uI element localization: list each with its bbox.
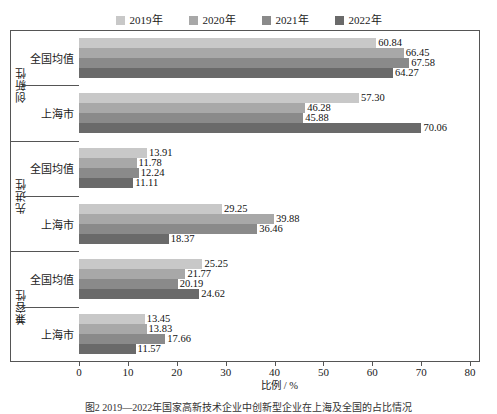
row-label: 上海市 <box>22 196 77 251</box>
bar[interactable] <box>79 324 147 334</box>
bar-value-label: 18.37 <box>169 233 195 244</box>
legend-label: 2021年 <box>276 15 309 26</box>
chart-row: 上海市57.3046.2845.8870.06 <box>22 85 470 140</box>
bar-track: 29.25 <box>79 204 470 214</box>
bar[interactable] <box>79 214 274 224</box>
bar[interactable] <box>79 234 169 244</box>
row-label: 上海市 <box>22 307 77 362</box>
bar-value-label: 17.66 <box>165 334 191 345</box>
chart-row: 全国均值13.9111.7812.2411.11 <box>22 141 470 196</box>
figure-caption: 图2 2019—2022年国家高新技术企业中创新型企业在上海及全国的占比情况 <box>0 399 497 414</box>
bar-cluster: 29.2539.8836.4618.37 <box>79 196 470 251</box>
bar[interactable] <box>79 113 303 123</box>
legend-item[interactable]: 2019年 <box>116 15 163 26</box>
bar-value-label: 64.27 <box>393 67 419 78</box>
bar-cluster: 25.2521.7720.1924.62 <box>79 251 470 306</box>
bar-track: 70.06 <box>79 123 470 133</box>
bar[interactable] <box>79 168 139 178</box>
bar-value-label: 45.88 <box>303 113 329 124</box>
bar-cluster: 13.4513.8317.6611.57 <box>79 307 470 362</box>
bar[interactable] <box>79 158 137 168</box>
bar-track: 36.46 <box>79 224 470 234</box>
bar-track: 57.30 <box>79 93 470 103</box>
legend-label: 2019年 <box>130 15 163 26</box>
bar[interactable] <box>79 103 305 113</box>
bar-track: 11.57 <box>79 344 470 354</box>
legend-label: 2020年 <box>203 15 236 26</box>
bar[interactable] <box>79 279 178 289</box>
legend-item[interactable]: 2020年 <box>189 15 236 26</box>
bar[interactable] <box>79 68 393 78</box>
bar[interactable] <box>79 178 133 188</box>
bar-track: 64.27 <box>79 68 470 78</box>
row-label: 全国均值 <box>22 30 77 85</box>
bar-track: 13.83 <box>79 324 470 334</box>
bar[interactable] <box>79 48 404 58</box>
legend-item[interactable]: 2021年 <box>262 15 309 26</box>
bar[interactable] <box>79 289 199 299</box>
row-label: 上海市 <box>22 85 77 140</box>
bar-track: 24.62 <box>79 289 470 299</box>
bar-value-label: 60.84 <box>376 37 402 48</box>
bar[interactable] <box>79 259 202 269</box>
bar-value-label: 20.19 <box>178 279 204 290</box>
bar-value-label: 57.30 <box>359 93 385 104</box>
legend-swatch-icon <box>262 16 271 25</box>
chart-row: 上海市13.4513.8317.6611.57 <box>22 307 470 362</box>
bar-value-label: 11.11 <box>133 178 158 189</box>
bar-value-label: 70.06 <box>421 123 447 134</box>
chart-row: 上海市29.2539.8836.4618.37 <box>22 196 470 251</box>
bar-track: 21.77 <box>79 269 470 279</box>
bar[interactable] <box>79 38 376 48</box>
bar-value-label: 24.62 <box>199 289 225 300</box>
bar[interactable] <box>79 224 257 234</box>
chart-row: 全国均值60.8466.4567.5864.27 <box>22 30 470 85</box>
bar-track: 46.28 <box>79 103 470 113</box>
bar-value-label: 11.57 <box>136 344 161 355</box>
legend-swatch-icon <box>116 16 125 25</box>
legend-item[interactable]: 2022年 <box>335 15 382 26</box>
bar[interactable] <box>79 269 185 279</box>
bar-track: 20.19 <box>79 279 470 289</box>
legend-label: 2022年 <box>349 15 382 26</box>
bar[interactable] <box>79 314 145 324</box>
bar-track: 25.25 <box>79 259 470 269</box>
bar-track: 18.37 <box>79 234 470 244</box>
bar-track: 13.45 <box>79 314 470 324</box>
bar-value-label: 29.25 <box>222 203 248 214</box>
bar-cluster: 57.3046.2845.8870.06 <box>79 85 470 140</box>
bar-track: 11.78 <box>79 158 470 168</box>
x-axis-title: 比例 / % <box>79 377 480 392</box>
legend-swatch-icon <box>189 16 198 25</box>
bar[interactable] <box>79 148 147 158</box>
chart-row: 全国均值25.2521.7720.1924.62 <box>22 251 470 306</box>
bar[interactable] <box>79 344 136 354</box>
row-label: 全国均值 <box>22 251 77 306</box>
bar-cluster: 60.8466.4567.5864.27 <box>79 30 470 85</box>
bar-track: 45.88 <box>79 113 470 123</box>
bar-track: 11.11 <box>79 178 470 188</box>
bar-value-label: 36.46 <box>257 223 283 234</box>
chart-legend: 2019年2020年2021年2022年 <box>0 10 497 30</box>
legend-swatch-icon <box>335 16 344 25</box>
bar[interactable] <box>79 204 222 214</box>
bar[interactable] <box>79 58 409 68</box>
bar-cluster: 13.9111.7812.2411.11 <box>79 141 470 196</box>
bar[interactable] <box>79 123 421 133</box>
row-label: 全国均值 <box>22 141 77 196</box>
